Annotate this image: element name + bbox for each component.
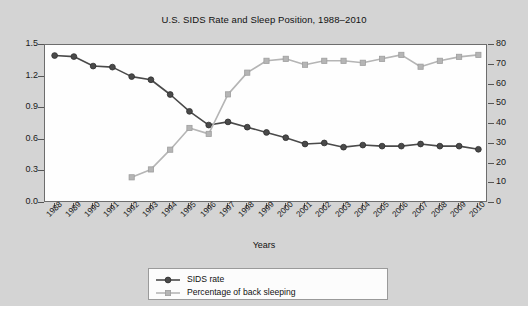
right-axis-tick-label: 10 xyxy=(496,176,528,186)
left-axis-tick-label: 0.6 xyxy=(4,133,38,143)
data-point-marker xyxy=(321,140,327,146)
legend-marker-icon xyxy=(155,273,181,287)
series-lines xyxy=(45,45,488,203)
right-axis-tick-label: 70 xyxy=(496,58,528,68)
data-point-marker xyxy=(456,143,462,149)
right-axis-tick-mark xyxy=(488,44,494,45)
right-axis-tick-mark xyxy=(488,163,494,164)
data-point-marker xyxy=(90,63,96,69)
data-point-marker xyxy=(302,141,308,147)
data-point-marker xyxy=(52,53,58,59)
data-point-marker xyxy=(302,62,307,67)
data-point-marker xyxy=(206,131,211,136)
data-point-marker xyxy=(418,141,424,147)
series-line-back-sleeping xyxy=(132,55,479,177)
data-point-marker xyxy=(379,56,384,61)
right-axis-tick-label: 50 xyxy=(496,97,528,107)
right-axis-tick-label: 30 xyxy=(496,137,528,147)
data-point-marker xyxy=(398,143,404,149)
data-point-marker xyxy=(360,60,365,65)
data-point-marker xyxy=(225,119,231,125)
data-point-marker xyxy=(476,52,481,57)
legend-label: Percentage of back sleeping xyxy=(187,287,295,297)
left-axis-tick-mark xyxy=(38,202,44,203)
figure-footer xyxy=(0,306,528,320)
data-point-marker xyxy=(437,58,442,63)
left-axis-tick-label: 1.2 xyxy=(4,70,38,80)
data-point-marker xyxy=(437,143,443,149)
data-point-marker xyxy=(418,64,423,69)
right-axis-tick-mark xyxy=(488,64,494,65)
data-point-marker xyxy=(283,56,288,61)
data-point-marker xyxy=(244,124,250,130)
data-point-marker xyxy=(379,143,385,149)
right-axis-tick-label: 20 xyxy=(496,157,528,167)
left-axis-tick-label: 0.0 xyxy=(4,196,38,206)
data-point-marker xyxy=(399,52,404,57)
data-point-marker xyxy=(341,58,346,63)
left-axis-tick-mark xyxy=(38,170,44,171)
data-point-marker xyxy=(264,130,270,136)
left-axis-tick-label: 0.3 xyxy=(4,164,38,174)
left-axis-tick-label: 0.9 xyxy=(4,101,38,111)
data-point-marker xyxy=(457,54,462,59)
right-axis-tick-mark xyxy=(488,182,494,183)
right-axis-tick-label: 80 xyxy=(496,38,528,48)
data-point-marker xyxy=(148,167,153,172)
right-axis-tick-label: 40 xyxy=(496,117,528,127)
right-axis-tick-mark xyxy=(488,84,494,85)
left-axis-tick-mark xyxy=(38,107,44,108)
right-axis-tick-label: 0 xyxy=(496,196,528,206)
plot-area xyxy=(44,44,487,202)
data-point-marker xyxy=(148,77,154,83)
data-point-marker xyxy=(110,64,116,70)
data-point-marker xyxy=(245,70,250,75)
chart-figure: U.S. SIDS Rate and Sleep Position, 1988–… xyxy=(0,0,528,306)
data-point-marker xyxy=(168,147,173,152)
right-axis-tick-mark xyxy=(488,143,494,144)
data-point-marker xyxy=(206,122,212,128)
data-point-marker xyxy=(322,58,327,63)
data-point-marker xyxy=(225,92,230,97)
x-axis-title: Years xyxy=(0,240,528,250)
chart-legend: SIDS ratePercentage of back sleeping xyxy=(148,268,388,300)
right-axis-tick-mark xyxy=(488,123,494,124)
legend-marker-icon xyxy=(155,286,181,300)
data-point-marker xyxy=(187,125,192,130)
right-axis-tick-mark xyxy=(488,202,494,203)
left-axis-tick-label: 1.5 xyxy=(4,38,38,48)
data-point-marker xyxy=(360,142,366,148)
data-point-marker xyxy=(167,92,173,98)
data-point-marker xyxy=(341,144,347,150)
left-axis-tick-mark xyxy=(38,139,44,140)
right-axis-tick-label: 60 xyxy=(496,78,528,88)
data-point-marker xyxy=(283,135,289,141)
data-point-marker xyxy=(264,58,269,63)
data-point-marker xyxy=(475,146,481,152)
legend-label: SIDS rate xyxy=(187,274,224,284)
right-axis-tick-mark xyxy=(488,103,494,104)
data-point-marker xyxy=(129,175,134,180)
left-axis-tick-mark xyxy=(38,44,44,45)
data-point-marker xyxy=(129,74,135,80)
left-axis-tick-mark xyxy=(38,76,44,77)
data-point-marker xyxy=(71,54,77,60)
chart-title: U.S. SIDS Rate and Sleep Position, 1988–… xyxy=(0,14,528,25)
data-point-marker xyxy=(187,108,193,114)
